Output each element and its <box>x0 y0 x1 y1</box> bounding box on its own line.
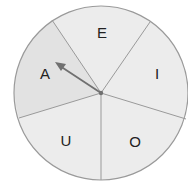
center-pivot <box>99 91 103 95</box>
spinner-wheel: E I O U A <box>0 0 188 184</box>
segment-label-u: U <box>61 132 72 149</box>
segment-label-o: O <box>129 133 141 150</box>
segment-label-a: A <box>40 65 50 82</box>
segment-label-e: E <box>97 24 107 41</box>
segment-label-i: I <box>155 65 159 82</box>
